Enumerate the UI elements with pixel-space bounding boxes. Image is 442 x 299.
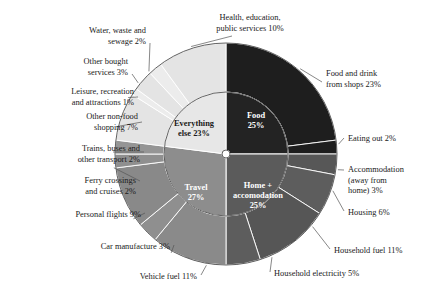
leader-line [132, 74, 138, 83]
nested-donut-chart: Food and drinkfrom shops 23%Eating out 2… [0, 0, 442, 299]
inner-slice-label: Everythingelse 23% [174, 119, 215, 138]
outer-slice-label: Trains, buses andother transport 2% [78, 144, 141, 164]
center-dot [222, 150, 230, 158]
outer-slice-label: Housing 6% [348, 208, 390, 217]
outer-slice-label: Other non-foodshopping 7% [86, 112, 139, 132]
outer-slice-label: Car manufacture 3% [101, 242, 170, 251]
leader-line [333, 191, 344, 211]
outer-slice-label: Vehicle fuel 11% [140, 272, 197, 281]
outer-slice-label: Other boughtservices 3% [84, 57, 129, 77]
leader-line [339, 138, 344, 144]
outer-slice-label: Household fuel 11% [334, 246, 403, 255]
center-hub [222, 150, 230, 158]
leader-line [149, 43, 150, 71]
outer-slice-label: Leisure, recreationand attractions 1% [71, 87, 135, 107]
chart-canvas: Food and drinkfrom shops 23%Eating out 2… [0, 0, 442, 299]
outer-slice-label: Eating out 2% [348, 134, 396, 143]
outer-slice-label: Household electricity 5% [274, 269, 359, 278]
outer-slice-label: Health, education,public services 10% [216, 13, 283, 33]
inner-slice-label: Food25% [247, 111, 265, 130]
leader-line [201, 265, 206, 275]
outer-slice-label: Water, waste andsewage 2% [89, 26, 147, 46]
outer-slice-label: Ferry crossingsand cruises 2% [85, 176, 136, 196]
leader-line [313, 227, 330, 249]
outer-slice-label: Accommodation(away fromhome) 3% [348, 165, 405, 195]
leader-line [270, 257, 272, 272]
outer-slice-label: Food and drinkfrom shops 23% [326, 69, 381, 89]
outer-slice-label: Personal flights 9% [75, 210, 141, 219]
